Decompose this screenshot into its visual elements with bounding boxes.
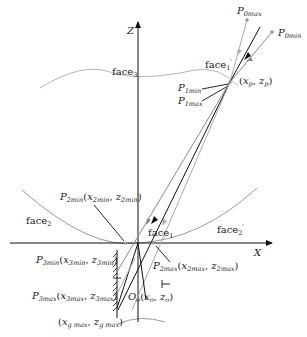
p2max-point [151, 241, 154, 244]
p2min-label: P2min(x2min, z2min) [59, 191, 142, 204]
z-axis-label: Z [126, 25, 135, 36]
x-axis-label: X [253, 247, 262, 258]
gmax-label: (xg max, zg max) [58, 316, 123, 329]
ray-gray-right [132, 82, 230, 310]
pivot-label: (xp, zp) [239, 75, 273, 88]
p2min-point [124, 241, 127, 244]
bottom-arc-curve [118, 318, 165, 324]
p2max-label: P2max(x2max, z2max) [152, 260, 238, 273]
arrow-head-gray-mid [146, 218, 151, 225]
arrow-head-light-mid [162, 219, 167, 226]
origin-label: Oo(xo, zo) [128, 291, 173, 304]
arrow-head-gray-top [237, 49, 242, 55]
arrow-head-dark-mid [151, 216, 158, 224]
p0min-label: P0min [277, 27, 301, 40]
face3-curve [40, 69, 238, 88]
p1min-label: P1min [177, 82, 201, 95]
p0min-point [270, 30, 274, 34]
face1-prime-label: face1′ [205, 58, 232, 72]
p1max-label: P1max [177, 95, 203, 108]
ray-gray-left [118, 82, 230, 270]
face1-label: face1 [148, 227, 173, 240]
p3max-label: P3max(x3max, z3max) [31, 290, 117, 303]
ray-dark-incoming [230, 27, 260, 82]
face2-prime-label: face2′ [217, 223, 244, 237]
face3-label: face3 [112, 66, 137, 79]
p3min-label: P3min(x3min, z3min) [35, 254, 118, 267]
p2min-leader [94, 205, 124, 241]
p0max-label: P0max [236, 5, 262, 18]
p0max-point [245, 18, 249, 22]
ray-light-p3max [118, 258, 135, 292]
face2-label: face2 [26, 215, 51, 228]
optical-diagram: Z X face3 face1′ face2 face2′ face1 P0ma… [0, 0, 307, 337]
